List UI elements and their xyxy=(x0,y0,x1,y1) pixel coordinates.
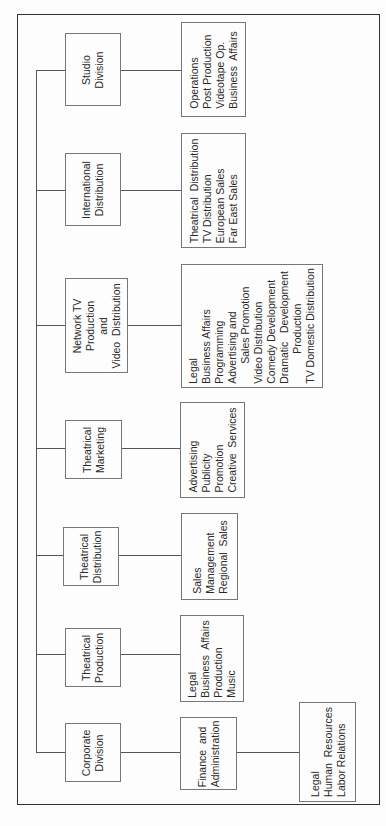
units-box-studio: Operations Post Production Videotape Op.… xyxy=(181,22,246,117)
division-label: Network TV Production and Video Distribu… xyxy=(71,283,123,368)
connector xyxy=(36,752,65,753)
units-box-theatrical-production: Legal Business Affairs Production Music xyxy=(180,615,244,702)
connector xyxy=(36,325,65,326)
units-box-network-tv: Legal Business Affairs Programming Adver… xyxy=(181,264,323,388)
division-box-studio: Studio Division xyxy=(65,33,121,106)
units-list: Sales Management Regional Sales xyxy=(190,520,229,594)
connector xyxy=(36,448,65,449)
connector xyxy=(127,325,181,326)
sub-units-box-legal-hr: Legal Human Resources Labor Relations xyxy=(299,702,356,802)
division-box-international: International Distribution xyxy=(65,153,121,226)
connector xyxy=(236,752,299,753)
connector xyxy=(120,190,181,191)
connector xyxy=(36,190,65,191)
sub-units-list: Legal Human Resources Labor Relations xyxy=(308,707,347,797)
division-box-theatrical-marketing: Theatrical Marketing xyxy=(65,420,122,479)
division-box-corporate: Corporate Division xyxy=(65,723,121,782)
units-list: Legal Business Affairs Programming Adver… xyxy=(187,268,317,384)
units-list: Theatrical Distribution TV Distribution … xyxy=(188,138,240,242)
division-box-theatrical-production: Theatrical Production xyxy=(65,628,121,687)
units-list: Legal Business Affairs Production Music xyxy=(186,620,238,697)
units-box-theatrical-distribution: Sales Management Regional Sales xyxy=(181,513,238,600)
units-box-finance-admin: Finance and Administration xyxy=(180,717,237,790)
connector xyxy=(36,555,63,556)
trunk-line xyxy=(36,70,37,753)
connector xyxy=(121,448,180,449)
division-label: International Distribution xyxy=(80,161,106,219)
connector xyxy=(120,70,181,71)
units-list: Operations Post Production Videotape Op.… xyxy=(188,31,240,108)
connector xyxy=(36,654,65,655)
units-list: Finance and Administration xyxy=(196,720,222,787)
units-box-theatrical-marketing: Advertising Publicity Promotion Creative… xyxy=(180,402,245,498)
connector xyxy=(118,555,181,556)
division-label: Corporate Division xyxy=(80,729,106,776)
units-box-international: Theatrical Distribution TV Distribution … xyxy=(181,133,246,248)
division-box-network-tv: Network TV Production and Video Distribu… xyxy=(65,278,128,373)
division-label: Theatrical Distribution xyxy=(78,530,104,583)
division-label: Theatrical Production xyxy=(80,632,106,682)
connector xyxy=(120,654,180,655)
units-list: Advertising Publicity Promotion Creative… xyxy=(187,407,239,492)
division-label: Theatrical Marketing xyxy=(81,426,107,472)
connector xyxy=(36,70,65,71)
connector xyxy=(120,752,180,753)
division-label: Studio Division xyxy=(80,51,106,88)
division-box-theatrical-distribution: Theatrical Distribution xyxy=(63,527,119,586)
